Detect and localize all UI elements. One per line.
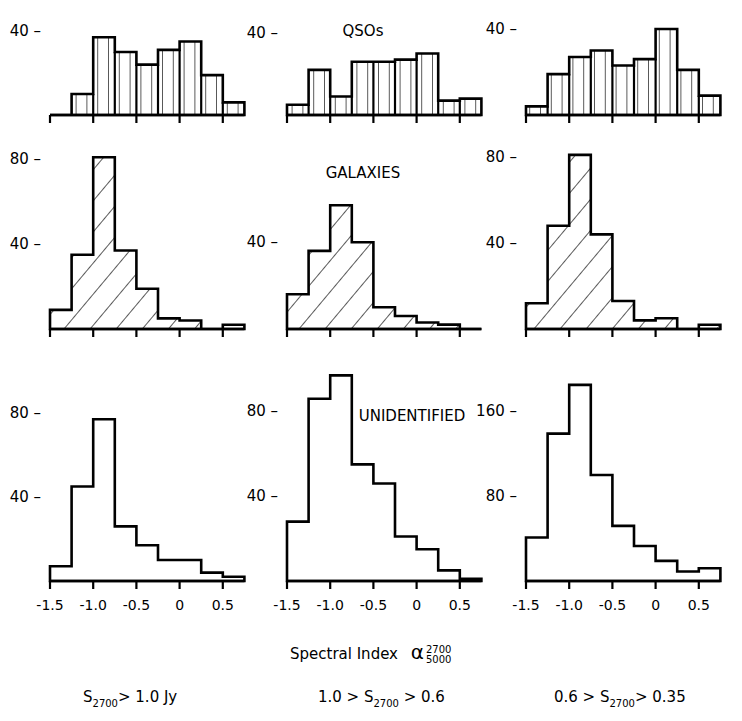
y-tick-label: 80 –	[486, 148, 517, 166]
column-label-3: 0.6 > S2700> 0.35	[554, 688, 686, 706]
x-tick-label: -0.5	[360, 597, 387, 613]
y-tick-label: 40 –	[10, 235, 41, 253]
x-axis-title: Spectral Index α27005000	[290, 640, 451, 665]
y-tick-label: 40 –	[247, 233, 278, 251]
col2-post: > 0.6	[399, 688, 445, 706]
row-label-qsos: QSOs	[343, 22, 384, 40]
column-label-2: 1.0 > S2700 > 0.6	[318, 688, 445, 706]
y-tick-label: 80 –	[247, 402, 278, 420]
panel-galaxies-1: 40 –80 –	[10, 150, 245, 337]
x-tick-label: 0	[175, 597, 184, 613]
x-tick-label: -1.0	[80, 597, 107, 613]
histogram-figure: 40 –40 –40 –40 –80 –40 –40 –80 –-1.5-1.0…	[0, 0, 742, 721]
column-label-1: S2700> 1.0 Jy	[83, 688, 177, 706]
col2-sub: 2700	[373, 698, 398, 709]
y-tick-label: 80 –	[486, 487, 517, 505]
histogram-outline	[50, 419, 244, 581]
x-tick-label: -0.5	[123, 597, 150, 613]
panel-qsos-1: 40 –	[10, 22, 245, 123]
col3-pre: 0.6 > S	[554, 688, 609, 706]
panel-galaxies-3: 40 –80 –	[486, 148, 721, 337]
y-tick-label: 40 –	[486, 20, 517, 38]
x-tick-label: 0.5	[449, 597, 471, 613]
row-label-unidentified: UNIDENTIFIED	[359, 407, 466, 425]
panel-galaxies-2: 40 –	[247, 205, 482, 337]
col2-pre: 1.0 > S	[318, 688, 373, 706]
y-tick-label: 80 –	[10, 150, 41, 168]
x-axis-title-text: Spectral Index	[290, 645, 398, 663]
y-tick-label: 40 –	[10, 22, 41, 40]
x-axis-alpha-symbol: α	[411, 640, 424, 664]
x-tick-label: 0.5	[688, 597, 710, 613]
x-tick-label: -1.5	[273, 597, 300, 613]
x-tick-label: -1.0	[556, 597, 583, 613]
row-label-galaxies: GALAXIES	[326, 164, 401, 182]
y-tick-label: 160 –	[476, 402, 517, 420]
col3-sub: 2700	[609, 698, 634, 709]
histogram-outline	[526, 385, 720, 581]
y-tick-label: 40 –	[247, 24, 278, 42]
x-axis-sub: 5000	[426, 655, 451, 665]
x-axis-sup: 2700	[426, 645, 451, 655]
histogram-hatch-fill	[287, 205, 481, 329]
histogram-panels: 40 –40 –40 –40 –80 –40 –40 –80 –-1.5-1.0…	[10, 20, 721, 613]
x-tick-label: -1.5	[36, 597, 63, 613]
x-tick-label: 0.5	[212, 597, 234, 613]
y-tick-label: 40 –	[486, 234, 517, 252]
panel-qsos-3: 40 –	[486, 20, 721, 123]
col1-pre: S	[83, 688, 93, 706]
col3-post: > 0.35	[635, 688, 686, 706]
panel-unidentified-1: -1.5-1.0-0.500.540 –80 –	[10, 404, 245, 613]
panel-unidentified-3: -1.5-1.0-0.500.580 –160 –	[476, 385, 720, 613]
x-tick-label: -1.0	[317, 597, 344, 613]
col1-sub: 2700	[93, 698, 118, 709]
y-tick-label: 80 –	[10, 404, 41, 422]
y-tick-label: 40 –	[247, 487, 278, 505]
x-tick-label: -0.5	[599, 597, 626, 613]
histogram-hatch-fill	[50, 157, 244, 329]
x-tick-label: 0	[651, 597, 660, 613]
histogram-hatch-fill	[526, 155, 720, 329]
x-tick-label: 0	[412, 597, 421, 613]
x-axis-index-stack: 27005000	[426, 645, 451, 665]
col1-post: > 1.0 Jy	[118, 688, 177, 706]
x-tick-label: -1.5	[512, 597, 539, 613]
histogram-hatch-fill	[526, 29, 720, 115]
y-tick-label: 40 –	[10, 488, 41, 506]
